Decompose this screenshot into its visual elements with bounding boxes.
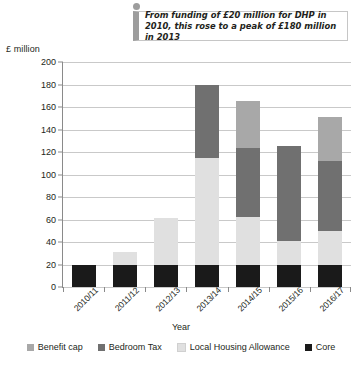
bar-slot: 2012/13 <box>145 62 186 287</box>
legend-swatch <box>27 344 34 351</box>
legend-item[interactable]: Local Housing Allowance <box>177 342 290 352</box>
x-tick-mark <box>310 287 311 292</box>
legend-item[interactable]: Bedroom Tax <box>98 342 162 352</box>
y-tick-label: 160 <box>41 102 63 112</box>
stacked-bar[interactable] <box>236 101 260 287</box>
bar-slot: 2015/16 <box>269 62 310 287</box>
plot-area: 200180160140120100806040200 2010/112011/… <box>62 62 351 288</box>
bar-segment[interactable] <box>277 241 301 265</box>
x-tick-mark <box>104 287 105 292</box>
x-tick-label: 2011/12 <box>113 285 141 313</box>
bar-segment[interactable] <box>113 265 137 288</box>
y-axis-title: £ million <box>6 44 40 54</box>
x-tick-mark <box>186 287 187 292</box>
y-tick-label: 200 <box>41 57 63 67</box>
bar-slot: 2010/11 <box>63 62 104 287</box>
gridline <box>63 287 351 288</box>
x-axis-title: Year <box>0 322 362 332</box>
bar-segment[interactable] <box>277 146 301 241</box>
legend-label: Bedroom Tax <box>109 342 162 352</box>
legend-swatch <box>177 343 186 352</box>
x-tick-label: 2015/16 <box>277 285 306 314</box>
bar-segment[interactable] <box>72 265 96 288</box>
legend-label: Benefit cap <box>38 342 83 352</box>
y-tick-label: 0 <box>51 282 63 292</box>
x-tick-mark <box>269 287 270 292</box>
y-tick-label: 100 <box>41 170 63 180</box>
legend-label: Core <box>316 342 336 352</box>
bar-group: 2010/112011/122012/132013/142014/152015/… <box>63 62 351 287</box>
x-tick-label: 2013/14 <box>195 285 224 314</box>
x-tick-label: 2012/13 <box>153 285 182 314</box>
bar-segment[interactable] <box>236 148 260 218</box>
bar-segment[interactable] <box>236 101 260 147</box>
bar-segment[interactable] <box>113 252 137 264</box>
x-tick-mark <box>63 287 64 292</box>
bar-segment[interactable] <box>154 265 178 288</box>
y-tick-label: 60 <box>46 215 63 225</box>
y-tick-label: 120 <box>41 147 63 157</box>
bar-segment[interactable] <box>318 231 342 265</box>
stacked-bar[interactable] <box>113 252 137 287</box>
stacked-bar[interactable] <box>154 218 178 287</box>
chart-legend: Benefit capBedroom TaxLocal Housing Allo… <box>0 342 362 352</box>
stacked-bar[interactable] <box>277 146 301 287</box>
bar-slot: 2011/12 <box>104 62 145 287</box>
bar-segment[interactable] <box>318 117 342 161</box>
bar-segment[interactable] <box>195 158 219 265</box>
bar-segment[interactable] <box>154 218 178 264</box>
bar-slot: 2013/14 <box>186 62 227 287</box>
bar-segment[interactable] <box>318 161 342 231</box>
bar-slot: 2014/15 <box>228 62 269 287</box>
legend-swatch <box>98 344 105 351</box>
y-tick-label: 140 <box>41 125 63 135</box>
stacked-bar[interactable] <box>195 85 219 288</box>
x-tick-label: 2014/15 <box>236 285 265 314</box>
callout-box: From funding of £20 million for DHP in 2… <box>133 11 348 41</box>
callout-text: From funding of £20 million for DHP in 2… <box>139 10 347 43</box>
bar-slot: 2016/17 <box>310 62 351 287</box>
stacked-bar[interactable] <box>318 117 342 287</box>
y-tick-label: 40 <box>46 237 63 247</box>
legend-item[interactable]: Benefit cap <box>27 342 83 352</box>
x-tick-mark <box>228 287 229 292</box>
y-tick-label: 180 <box>41 80 63 90</box>
bar-segment[interactable] <box>236 217 260 264</box>
bar-segment[interactable] <box>195 265 219 288</box>
legend-label: Local Housing Allowance <box>190 342 290 352</box>
x-tick-label: 2010/11 <box>71 285 99 313</box>
y-tick-label: 80 <box>46 192 63 202</box>
legend-swatch <box>305 344 312 351</box>
x-tick-mark <box>350 287 351 292</box>
bar-segment[interactable] <box>318 265 342 288</box>
legend-item[interactable]: Core <box>305 342 336 352</box>
stacked-bar[interactable] <box>72 265 96 288</box>
x-tick-label: 2016/17 <box>318 285 347 314</box>
x-tick-mark <box>145 287 146 292</box>
y-tick-label: 20 <box>46 260 63 270</box>
bar-segment[interactable] <box>195 85 219 158</box>
